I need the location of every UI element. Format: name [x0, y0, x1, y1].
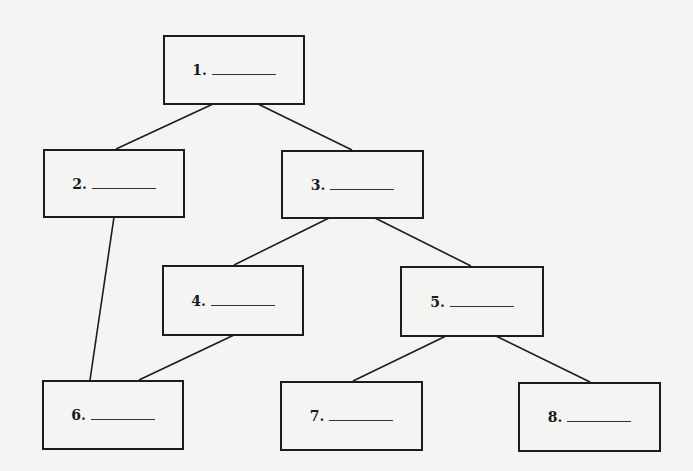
edge-1-2 [116, 104, 213, 149]
node-number: 7. [310, 409, 325, 423]
node-number: 2. [72, 177, 87, 191]
answer-blank[interactable] [91, 409, 155, 420]
answer-blank[interactable] [92, 178, 156, 189]
edge-5-8 [496, 336, 590, 382]
edge-4-6 [139, 335, 234, 380]
node-8: 8. [518, 382, 661, 452]
answer-blank[interactable] [330, 179, 394, 190]
node-1: 1. [163, 35, 305, 105]
edge-2-6 [90, 217, 114, 380]
node-number: 8. [548, 410, 563, 424]
node-4: 4. [162, 265, 304, 336]
node-2: 2. [43, 149, 185, 218]
node-7: 7. [280, 381, 423, 451]
answer-blank[interactable] [329, 410, 393, 421]
node-3: 3. [281, 150, 424, 219]
node-6: 6. [42, 380, 184, 450]
node-number: 4. [191, 294, 206, 308]
answer-blank[interactable] [211, 295, 275, 306]
edge-5-7 [353, 336, 446, 381]
node-5: 5. [400, 266, 544, 337]
node-number: 6. [71, 408, 86, 422]
node-number: 5. [430, 295, 445, 309]
node-number: 1. [192, 63, 207, 77]
answer-blank[interactable] [567, 411, 631, 422]
edge-3-5 [375, 218, 471, 266]
edge-1-3 [258, 104, 352, 150]
answer-blank[interactable] [212, 64, 276, 75]
tree-diagram: 1. 2. 3. 4. 5. 6. 7. [0, 0, 693, 471]
node-number: 3. [311, 178, 326, 192]
answer-blank[interactable] [450, 296, 514, 307]
edge-3-4 [234, 218, 329, 265]
